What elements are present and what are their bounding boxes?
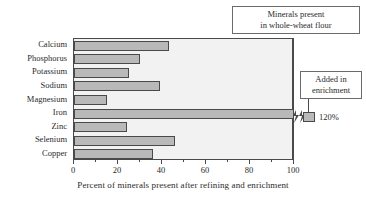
category-label-selenium: Selenium bbox=[35, 135, 67, 144]
bar-row bbox=[74, 122, 294, 132]
category-label-zinc: Zinc bbox=[51, 122, 67, 131]
bar-row bbox=[74, 41, 294, 51]
callout-enrich-line-1: Added in bbox=[305, 74, 357, 85]
x-minor-tick bbox=[139, 160, 140, 162]
x-tick-label: 20 bbox=[105, 165, 129, 175]
x-tick bbox=[249, 160, 250, 164]
x-tick bbox=[205, 160, 206, 164]
bar-magnesium bbox=[74, 95, 107, 105]
bar-sodium bbox=[74, 81, 160, 91]
x-minor-tick bbox=[183, 160, 184, 162]
x-tick-label: 80 bbox=[237, 165, 261, 175]
bar-copper bbox=[74, 149, 153, 159]
x-axis-title: Percent of minerals present after refini… bbox=[0, 180, 366, 190]
bar-phosphorus bbox=[74, 54, 140, 64]
bar-row bbox=[74, 81, 294, 91]
x-tick-label: 40 bbox=[149, 165, 173, 175]
bar-iron bbox=[74, 109, 294, 119]
bar-row bbox=[74, 136, 294, 146]
callout-flour-line-1: Minerals present bbox=[237, 9, 355, 20]
category-label-copper: Copper bbox=[42, 149, 67, 158]
iron-overflow-bar bbox=[303, 112, 315, 122]
category-label-iron: Iron bbox=[53, 108, 67, 117]
bar-row bbox=[74, 54, 294, 64]
category-label-phosphorus: Phosphorus bbox=[27, 54, 67, 63]
bar-selenium bbox=[74, 136, 175, 146]
x-minor-tick bbox=[271, 160, 272, 162]
mineral-retention-bar-chart: CalciumPhosphorusPotassiumSodiumMagnesiu… bbox=[0, 0, 366, 209]
x-minor-tick bbox=[95, 160, 96, 162]
x-tick-label: 100 bbox=[281, 165, 305, 175]
bar-row bbox=[74, 109, 294, 119]
category-label-magnesium: Magnesium bbox=[27, 95, 67, 104]
callout-flour-leader-vertical bbox=[293, 38, 294, 160]
category-label-calcium: Calcium bbox=[38, 40, 67, 49]
category-axis-labels: CalciumPhosphorusPotassiumSodiumMagnesiu… bbox=[0, 38, 70, 160]
callout-whole-wheat-flour: Minerals present in whole-wheat flour bbox=[232, 6, 360, 34]
bar-calcium bbox=[74, 41, 169, 51]
callout-flour-leader-elbow bbox=[293, 38, 294, 39]
bar-row bbox=[74, 68, 294, 78]
x-minor-tick bbox=[227, 160, 228, 162]
bar-potassium bbox=[74, 68, 129, 78]
callout-added-in-enrichment: Added in enrichment bbox=[300, 71, 362, 99]
callout-enrich-leader bbox=[308, 99, 309, 112]
plot-area bbox=[73, 38, 293, 160]
x-tick-label: 0 bbox=[61, 165, 85, 175]
bar-row bbox=[74, 149, 294, 159]
x-tick bbox=[117, 160, 118, 164]
x-tick bbox=[161, 160, 162, 164]
bar-zinc bbox=[74, 122, 127, 132]
category-label-potassium: Potassium bbox=[32, 67, 67, 76]
bar-row bbox=[74, 95, 294, 105]
iron-value-label: 120% bbox=[319, 112, 339, 122]
x-tick-label: 60 bbox=[193, 165, 217, 175]
category-label-sodium: Sodium bbox=[41, 81, 67, 90]
callout-enrich-line-2: enrichment bbox=[305, 85, 357, 96]
x-tick bbox=[293, 160, 294, 164]
callout-flour-line-2: in whole-wheat flour bbox=[237, 20, 355, 31]
x-tick bbox=[73, 160, 74, 164]
